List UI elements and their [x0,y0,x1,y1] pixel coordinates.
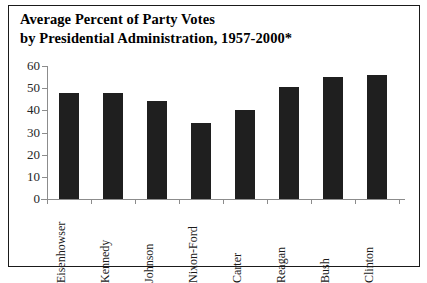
y-axis-labels: 0102030405060 [0,66,40,199]
bar[interactable] [59,93,79,199]
x-axis-category-text: Carter [230,253,245,283]
y-axis-tick-label: 0 [34,191,41,207]
y-axis-tick-label: 50 [27,80,40,96]
bar[interactable] [191,123,211,199]
bar[interactable] [323,77,343,199]
x-axis-tick-mark [311,199,312,204]
x-axis-tick-mark [91,199,92,204]
x-axis-category-text: Clinton [362,247,377,283]
bar[interactable] [103,93,123,199]
y-axis-tick-mark [42,133,47,134]
x-axis-tick-mark [399,199,400,204]
x-axis-category-text: Johnson [142,244,157,283]
x-axis-tick-mark [355,199,356,204]
y-axis-tick-label: 30 [27,125,40,141]
bar-slot [135,66,179,199]
bar[interactable] [235,110,255,199]
plot-area [47,66,399,199]
x-axis-category-text: Eisenhowser [54,222,69,283]
bar-slot [179,66,223,199]
y-axis-tick-mark [42,177,47,178]
bar-slot [223,66,267,199]
x-axis-tick-mark [223,199,224,204]
x-axis-tick-mark [47,199,48,204]
x-axis-category-label: Reagan [267,206,311,270]
bar-slot [47,66,91,199]
y-axis-tick-label: 20 [27,147,40,163]
x-axis-tick-mark [179,199,180,204]
x-axis-category-text: Bush [318,258,333,283]
bar[interactable] [147,101,167,199]
y-axis-tick-mark [42,110,47,111]
x-axis-category-label: Kennedy [91,206,135,270]
x-axis-tick-mark [135,199,136,204]
x-axis-category-text: Kennedy [98,240,113,283]
y-axis-tick-label: 10 [27,169,40,185]
y-axis-tick-mark [42,66,47,67]
x-axis-category-text: Reagan [274,247,289,283]
chart-title: Average Percent of Party Votes by Presid… [20,10,390,48]
bar[interactable] [279,87,299,199]
x-axis-tick-mark [267,199,268,204]
x-axis-category-text: Nixon-Ford [186,226,201,283]
y-axis-tick-label: 60 [27,58,40,74]
x-axis-category-label: Carter [223,206,267,270]
x-axis-category-label: Bush [311,206,355,270]
y-axis-tick-mark [42,155,47,156]
x-axis-category-label: Eisenhowser [47,206,91,270]
bar[interactable] [367,75,387,199]
chart-title-line-1: Average Percent of Party Votes [20,10,390,29]
x-axis-category-label: Clinton [355,206,399,270]
bar-slot [355,66,399,199]
bar-slot [311,66,355,199]
y-axis-tick-label: 40 [27,102,40,118]
x-axis-category-label: Nixon-Ford [179,206,223,270]
y-axis-tick-mark [42,88,47,89]
chart-title-line-2: by Presidential Administration, 1957-200… [20,29,390,48]
x-axis-category-label: Johnson [135,206,179,270]
bar-slot [267,66,311,199]
bar-slot [91,66,135,199]
